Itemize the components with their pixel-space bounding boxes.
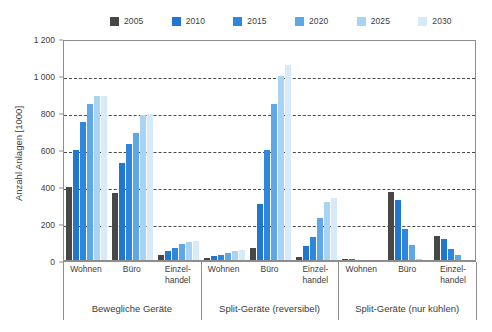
bar-2010[interactable] (395, 200, 401, 261)
legend-item-2025[interactable]: 2025 (357, 16, 419, 26)
y-tick-label-600: 600 (41, 146, 55, 156)
bar-2030[interactable] (331, 198, 337, 261)
y-tick-label-1000: 1 000 (34, 72, 55, 82)
group-label: Split-Geräte (reversibel) (219, 303, 320, 314)
legend-item-2030[interactable]: 2030 (418, 16, 480, 26)
bar-2015[interactable] (264, 150, 270, 261)
legend-item-2015[interactable]: 2015 (233, 16, 295, 26)
bar-2025[interactable] (94, 96, 100, 261)
bar-cluster (385, 41, 431, 261)
y-tick-label-0: 0 (50, 257, 55, 267)
y-tick-label-200: 200 (41, 220, 55, 230)
y-tick-label-1200: 1 200 (34, 35, 55, 45)
bar-2020[interactable] (133, 133, 139, 261)
legend-label-2030: 2030 (432, 16, 451, 26)
bar-2020[interactable] (87, 104, 93, 261)
bar-cluster (64, 41, 110, 261)
legend-label-2005: 2005 (124, 16, 143, 26)
y-axis: Anzahl Anlagen [1000] 02004006008001 000… (0, 40, 63, 262)
group-separator (476, 262, 477, 320)
legend-item-2005[interactable]: 2005 (110, 16, 172, 26)
bar-2020[interactable] (271, 104, 277, 261)
bar-2020[interactable] (409, 245, 415, 261)
group-separator (63, 262, 64, 320)
legend-label-2015: 2015 (247, 16, 266, 26)
bar-2005[interactable] (112, 193, 118, 261)
bar-cluster (339, 41, 385, 261)
chart-legend: 200520102015202020252030 (110, 13, 480, 29)
group-label: Bewegliche Geräte (92, 303, 172, 314)
group-axis: Bewegliche GeräteSplit-Geräte (reversibe… (63, 262, 476, 320)
bar-2015[interactable] (126, 144, 132, 261)
bar-2005[interactable] (388, 192, 394, 261)
bar-2030[interactable] (193, 241, 199, 261)
legend-swatch-2015 (233, 17, 242, 26)
bar-2010[interactable] (257, 204, 263, 261)
legend-item-2020[interactable]: 2020 (295, 16, 357, 26)
bar-2010[interactable] (73, 150, 79, 261)
bar-cluster (248, 41, 294, 261)
bar-2025[interactable] (186, 242, 192, 261)
y-axis-title: Anzahl Anlagen [1000] (13, 74, 24, 234)
legend-swatch-2010 (172, 17, 181, 26)
y-tick-label-800: 800 (41, 109, 55, 119)
group-separator (338, 262, 339, 320)
group-separator (201, 262, 202, 320)
legend-label-2010: 2010 (186, 16, 205, 26)
chart-root: 200520102015202020252030 Anzahl Anlagen … (0, 0, 492, 332)
group-label: Split-Geräte (nur kühlen) (355, 303, 459, 314)
bar-2030[interactable] (147, 114, 153, 261)
bar-2015[interactable] (402, 229, 408, 261)
legend-swatch-2025 (357, 17, 366, 26)
bar-2010[interactable] (119, 163, 125, 261)
bar-2030[interactable] (285, 65, 291, 261)
legend-swatch-2030 (418, 17, 427, 26)
legend-label-2020: 2020 (309, 16, 328, 26)
bar-cluster (293, 41, 339, 261)
bar-2010[interactable] (303, 246, 309, 261)
bar-2015[interactable] (310, 237, 316, 261)
bar-cluster (110, 41, 156, 261)
bar-cluster (431, 41, 477, 261)
bar-2005[interactable] (434, 236, 440, 261)
y-tick-label-400: 400 (41, 183, 55, 193)
bar-2015[interactable] (80, 122, 86, 261)
plot-area (63, 40, 476, 262)
bar-2020[interactable] (179, 244, 185, 261)
bar-2030[interactable] (101, 96, 107, 261)
bar-cluster (202, 41, 248, 261)
legend-swatch-2005 (110, 17, 119, 26)
bar-2025[interactable] (278, 76, 284, 261)
x-axis-line (64, 260, 475, 261)
bar-2025[interactable] (140, 115, 146, 261)
bar-2025[interactable] (324, 202, 330, 261)
bar-2005[interactable] (66, 187, 72, 261)
bar-cluster (156, 41, 202, 261)
bar-2010[interactable] (441, 239, 447, 261)
legend-item-2010[interactable]: 2010 (172, 16, 234, 26)
legend-label-2025: 2025 (371, 16, 390, 26)
bar-2020[interactable] (317, 218, 323, 261)
legend-swatch-2020 (295, 17, 304, 26)
bars-layer (64, 41, 475, 261)
